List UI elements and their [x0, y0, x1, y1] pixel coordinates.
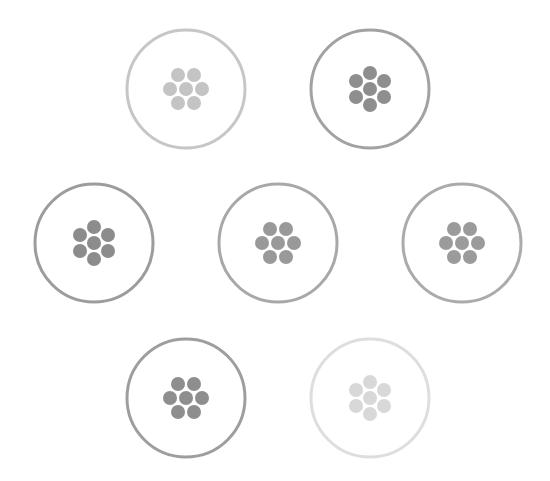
dot-icon [87, 252, 101, 266]
dot-icon [73, 228, 87, 242]
dot-icon [363, 375, 377, 389]
dot-icon [87, 220, 101, 234]
dot-icon [73, 244, 87, 258]
dot-icon [101, 244, 115, 258]
dot-icon [279, 250, 293, 264]
dot-icon [377, 383, 391, 397]
dot-icon [471, 236, 485, 250]
dot-icon [187, 96, 201, 110]
dot-icon [171, 405, 185, 419]
dot-icon [447, 222, 461, 236]
dot-icon [163, 82, 177, 96]
dot-icon [363, 407, 377, 421]
dot-icon [363, 82, 377, 96]
dot-cluster-badge-3 [35, 184, 153, 302]
dot-icon [363, 98, 377, 112]
dot-icon [255, 236, 269, 250]
dot-icon [287, 236, 301, 250]
dot-icon [195, 82, 209, 96]
dot-icon [349, 399, 363, 413]
dot-icon [163, 391, 177, 405]
dot-cluster-badge-6 [127, 339, 245, 457]
dot-icon [463, 250, 477, 264]
badge-grid [0, 0, 550, 481]
dot-icon [187, 377, 201, 391]
dot-icon [279, 222, 293, 236]
dot-cluster-badge-4 [219, 184, 337, 302]
dot-icon [195, 391, 209, 405]
badge-canvas [0, 0, 550, 481]
dot-cluster-badge-7 [311, 339, 429, 457]
dot-icon [271, 236, 285, 250]
dot-cluster-badge-1 [127, 30, 245, 148]
dot-icon [363, 66, 377, 80]
dot-icon [349, 74, 363, 88]
dot-icon [101, 228, 115, 242]
dot-cluster-badge-2 [311, 30, 429, 148]
dot-icon [363, 391, 377, 405]
dot-icon [447, 250, 461, 264]
dot-icon [187, 68, 201, 82]
dot-icon [377, 90, 391, 104]
dot-icon [377, 74, 391, 88]
dot-icon [349, 90, 363, 104]
dot-icon [263, 222, 277, 236]
dot-icon [455, 236, 469, 250]
dot-icon [463, 222, 477, 236]
dot-icon [179, 82, 193, 96]
dot-icon [377, 399, 391, 413]
dot-cluster-badge-5 [403, 184, 521, 302]
dot-icon [349, 383, 363, 397]
dot-icon [171, 96, 185, 110]
dot-icon [187, 405, 201, 419]
dot-icon [171, 377, 185, 391]
dot-icon [171, 68, 185, 82]
dot-icon [87, 236, 101, 250]
dot-icon [439, 236, 453, 250]
dot-icon [179, 391, 193, 405]
dot-icon [263, 250, 277, 264]
